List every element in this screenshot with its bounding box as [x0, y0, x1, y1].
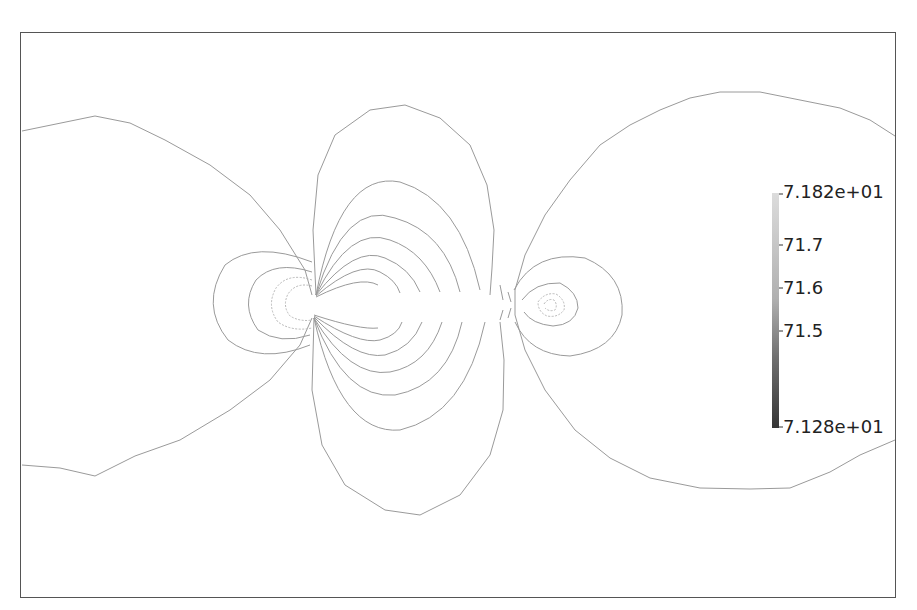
contour-left-loop-2	[248, 268, 312, 340]
contour-vortex-3	[538, 294, 564, 317]
contour-plot[interactable]	[0, 0, 917, 610]
contour-left-loop-4	[285, 285, 312, 321]
colorbar-min-label: 7.128e+01	[783, 418, 884, 436]
contour-arc-bot-1	[314, 318, 485, 430]
contour-arc-top-4	[316, 255, 420, 295]
contour-left-loop-3	[271, 277, 312, 329]
colorbar-max-label: 7.182e+01	[783, 183, 884, 201]
colorbar-gradient	[772, 193, 779, 428]
contour-arc-top-2	[316, 215, 460, 295]
contour-left-outer	[22, 116, 312, 476]
colorbar-tick-71-5: 71.5	[783, 322, 823, 340]
contour-arc-bot-3	[314, 318, 442, 373]
contour-arc-top-3	[316, 237, 440, 295]
contour-vortex-4	[544, 300, 556, 311]
contour-vortex-2	[522, 283, 578, 326]
colorbar-ticks	[779, 194, 783, 427]
colorbar-tick-71-6: 71.6	[783, 279, 823, 297]
contour-center-bottom-outer	[312, 318, 504, 515]
contour-vortex-outer	[514, 257, 622, 356]
colorbar-tick-71-7: 71.7	[783, 236, 823, 254]
contour-center-top-outer	[313, 105, 494, 295]
contour-wake-2	[508, 292, 511, 318]
contour-wake-1	[500, 285, 503, 320]
contour-arc-bot-4	[314, 317, 422, 356]
